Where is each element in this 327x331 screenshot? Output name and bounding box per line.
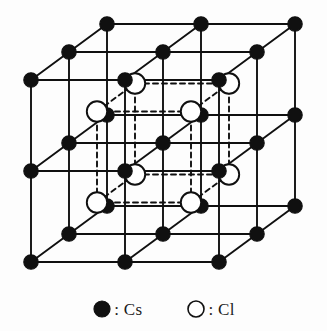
- atom-cs: [212, 164, 226, 178]
- atom-cs: [156, 45, 170, 59]
- atom-cs: [250, 136, 264, 150]
- atom-cs: [118, 164, 132, 178]
- legend: : Cs : Cl: [0, 292, 327, 326]
- atom-cs: [24, 73, 38, 87]
- atom-cs: [62, 45, 76, 59]
- atom-cs: [250, 45, 264, 59]
- open-circle-icon: [186, 299, 206, 319]
- filled-circle-icon: [92, 299, 112, 319]
- atom-cs: [288, 199, 302, 213]
- atom-cl: [87, 101, 107, 121]
- atom-cs: [288, 17, 302, 31]
- atom-cs: [118, 255, 132, 269]
- atom-cs: [156, 227, 170, 241]
- atom-cs: [100, 17, 114, 31]
- atom-cs: [62, 136, 76, 150]
- figure-canvas: : Cs : Cl: [0, 0, 327, 331]
- crystal-lattice-diagram: [0, 0, 327, 331]
- atom-cs: [212, 255, 226, 269]
- legend-item-cs: : Cs: [92, 299, 142, 319]
- atom-cs: [118, 73, 132, 87]
- atom-cs: [250, 227, 264, 241]
- atom-cl: [181, 101, 201, 121]
- atom-cs: [194, 17, 208, 31]
- atom-cs: [62, 227, 76, 241]
- legend-label-cl: : Cl: [208, 301, 234, 318]
- legend-label-cs: : Cs: [114, 301, 142, 318]
- atom-cs: [212, 73, 226, 87]
- atom-cl: [181, 192, 201, 212]
- atom-layer: [24, 17, 302, 269]
- atom-cs: [24, 255, 38, 269]
- atom-cs: [24, 164, 38, 178]
- legend-item-cl: : Cl: [186, 299, 234, 319]
- atom-cs: [156, 136, 170, 150]
- atom-cs: [288, 108, 302, 122]
- atom-cl: [87, 192, 107, 212]
